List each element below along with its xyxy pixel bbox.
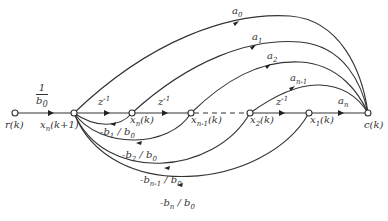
label-x1: x1(k) [310, 115, 334, 128]
arrow-icon [162, 110, 168, 116]
arrow-icon [233, 21, 239, 26]
label-b2: -b2 / b0 [122, 150, 157, 163]
label-b1: -b1 / b0 [100, 127, 135, 140]
label-bn: -bn / b0 [160, 198, 195, 211]
label-an: an [338, 96, 348, 109]
label-z1: z-1 [98, 96, 110, 107]
arrow-icon [48, 110, 54, 116]
label-c: c(k) [364, 120, 383, 130]
signal-flow-graph: 1 b0 r(k) xn(k+1) xn(k) xn-1(k) x2(k) x1… [0, 0, 388, 221]
input-gain-label: 1 b0 [36, 83, 48, 108]
label-an1: an-1 [290, 73, 307, 86]
label-r: r(k) [5, 120, 24, 130]
edge-an1 [250, 85, 368, 113]
label-z2: z-1 [158, 96, 170, 107]
node-r [12, 110, 18, 116]
label-x2: x2(k) [250, 115, 274, 128]
arrow-icon [338, 110, 344, 116]
label-a2: a2 [267, 51, 277, 64]
arrow-icon [164, 166, 170, 170]
edge-a0 [74, 16, 368, 113]
label-a1: a1 [252, 32, 262, 45]
label-a0: a0 [232, 6, 242, 19]
label-xn-k1: xn(k+1) [40, 120, 79, 133]
node-c [365, 110, 371, 116]
label-bn1: -bn-1 / b0 [140, 175, 182, 188]
arrow-icon [136, 141, 142, 145]
node-xn-k1 [71, 110, 77, 116]
label-xn-1: xn-1(k) [191, 115, 222, 128]
label-z3: z-1 [276, 96, 288, 107]
arrow-icon [279, 110, 285, 116]
graph-edges [0, 0, 388, 221]
arrow-icon [104, 110, 110, 116]
